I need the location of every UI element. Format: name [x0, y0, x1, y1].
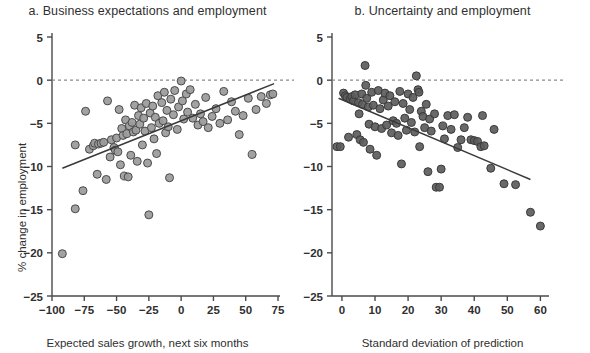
- x-tick-label: −100: [39, 304, 65, 316]
- y-tick-label: −10: [303, 161, 323, 173]
- x-tick-label: 50: [239, 304, 252, 316]
- scatter-point: [450, 111, 458, 119]
- scatter-point: [235, 131, 243, 139]
- scatter-point: [216, 119, 224, 127]
- scatter-point: [173, 125, 181, 133]
- scatter-point: [82, 107, 90, 115]
- x-tick-label: 0: [178, 304, 184, 316]
- scatter-point: [366, 145, 374, 153]
- y-tick-label: 0: [317, 75, 323, 87]
- scatter-point: [500, 180, 508, 188]
- scatter-point: [116, 161, 124, 169]
- y-tick-label: −15: [303, 204, 323, 216]
- scatter-point: [79, 187, 87, 195]
- panel-a-y-axis-label: % change in employment: [16, 143, 28, 272]
- scatter-point: [457, 136, 465, 144]
- scatter-point: [480, 142, 488, 150]
- scatter-point: [166, 174, 174, 182]
- scatter-point: [487, 164, 495, 172]
- scatter-points: [333, 61, 544, 230]
- scatter-point: [124, 173, 132, 181]
- x-tick-label: −50: [107, 304, 127, 316]
- scatter-point: [422, 100, 430, 108]
- scatter-point: [345, 133, 353, 141]
- scatter-point: [373, 151, 381, 159]
- y-tick-label: 0: [37, 75, 43, 87]
- scatter-point: [464, 113, 472, 121]
- scatter-point: [396, 87, 404, 95]
- scatter-point: [431, 110, 439, 118]
- x-tick-label: 10: [369, 304, 382, 316]
- scatter-point: [336, 143, 344, 151]
- scatter-point: [149, 102, 157, 110]
- panel-b-plot: 50−5−10−15−20−250102030405060: [295, 0, 590, 353]
- y-tick-label: −20: [303, 247, 323, 259]
- panel-a-plot: 50−5−10−15−20−25−100−75−50−250255075: [0, 0, 295, 353]
- scatter-point: [460, 124, 468, 132]
- scatter-point: [412, 72, 420, 80]
- scatter-point: [204, 124, 212, 132]
- scatter-point: [490, 125, 498, 133]
- scatter-point: [102, 175, 110, 183]
- scatter-point: [104, 97, 112, 105]
- scatter-point: [186, 86, 194, 94]
- x-tick-label: 20: [402, 304, 415, 316]
- x-tick-label: 25: [207, 304, 220, 316]
- scatter-point: [415, 88, 423, 96]
- scatter-point: [231, 107, 239, 115]
- scatter-point: [191, 100, 199, 108]
- x-tick-label: 60: [534, 304, 547, 316]
- scatter-point: [447, 125, 455, 133]
- scatter-point: [376, 105, 384, 113]
- x-tick-label: 50: [501, 304, 514, 316]
- scatter-point: [269, 90, 277, 98]
- figure-container: a. Business expectations and employment …: [0, 0, 590, 353]
- scatter-point: [160, 88, 168, 96]
- scatter-point: [512, 181, 520, 189]
- x-tick-label: 75: [272, 304, 285, 316]
- scatter-point: [93, 170, 101, 178]
- scatter-point: [220, 87, 228, 95]
- scatter-point: [153, 150, 161, 158]
- scatter-point: [128, 118, 136, 126]
- scatter-point: [361, 61, 369, 69]
- scatter-point: [202, 93, 210, 101]
- scatter-points: [58, 77, 277, 258]
- scatter-point: [147, 124, 155, 132]
- scatter-point: [133, 157, 141, 165]
- panel-a-x-axis-label: Expected sales growth, next six months: [0, 337, 295, 349]
- scatter-point: [115, 106, 123, 114]
- x-tick-label: 0: [339, 304, 345, 316]
- scatter-point: [526, 208, 534, 216]
- scatter-point: [437, 165, 445, 173]
- scatter-point: [362, 81, 370, 89]
- scatter-point: [416, 143, 424, 151]
- scatter-point: [399, 99, 407, 107]
- scatter-point: [224, 116, 232, 124]
- y-tick-label: 5: [317, 32, 324, 44]
- scatter-point: [145, 211, 153, 219]
- scatter-point: [262, 99, 270, 107]
- scatter-point: [252, 106, 260, 114]
- scatter-point: [100, 138, 108, 146]
- scatter-point: [406, 106, 414, 114]
- scatter-point: [239, 112, 247, 120]
- scatter-point: [248, 150, 256, 158]
- x-tick-label: 30: [435, 304, 448, 316]
- scatter-point: [407, 118, 415, 126]
- scatter-point: [71, 141, 79, 149]
- scatter-point: [158, 99, 166, 107]
- scatter-point: [58, 250, 66, 258]
- scatter-point: [479, 112, 487, 120]
- scatter-point: [359, 138, 367, 146]
- scatter-point: [424, 168, 432, 176]
- panel-b-x-axis-label: Standard deviation of prediction: [295, 337, 590, 349]
- y-tick-label: 5: [37, 32, 44, 44]
- scatter-point: [106, 153, 114, 161]
- scatter-point: [257, 93, 265, 101]
- scatter-point: [439, 122, 447, 130]
- y-tick-label: −25: [303, 291, 323, 303]
- scatter-point: [208, 112, 216, 120]
- scatter-point: [394, 131, 402, 139]
- scatter-point: [114, 148, 122, 156]
